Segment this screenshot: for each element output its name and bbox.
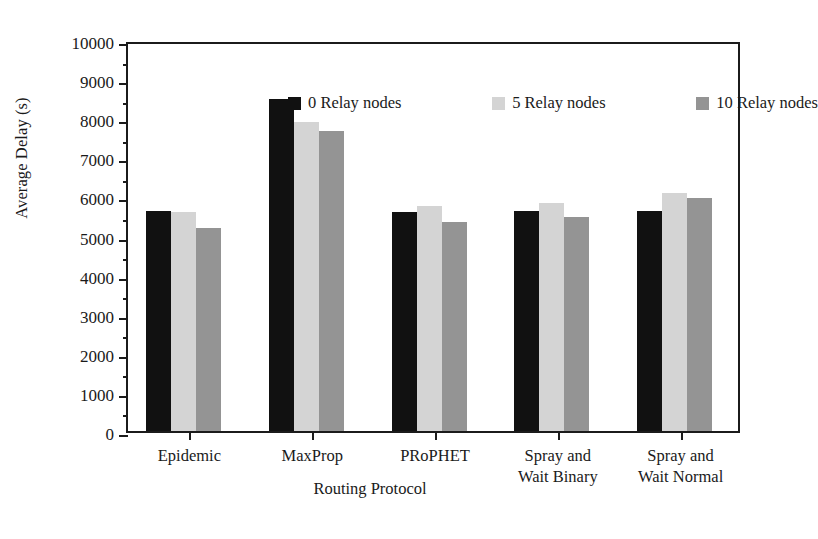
legend-label-10-relay-nodes: 10 Relay nodes xyxy=(716,93,818,113)
x-tick xyxy=(558,431,560,440)
y-tick-minor xyxy=(123,64,128,66)
x-axis-title: Routing Protocol xyxy=(0,479,740,499)
y-tick-minor xyxy=(123,298,128,300)
y-tick-major xyxy=(119,200,128,202)
legend-item-1: 5 Relay nodes xyxy=(492,93,605,113)
x-tick xyxy=(312,431,314,440)
y-tick-minor xyxy=(123,259,128,261)
y-tick-label: 9000 xyxy=(80,73,114,93)
y-tick-label: 4000 xyxy=(80,269,114,289)
y-axis-title: Average Delay (s) xyxy=(12,0,32,328)
y-tick-label: 7000 xyxy=(80,151,114,171)
y-tick-label: 6000 xyxy=(80,190,114,210)
x-tick xyxy=(189,431,191,440)
legend-label-5-relay-nodes: 5 Relay nodes xyxy=(512,93,605,113)
bar xyxy=(539,203,564,431)
y-tick-minor xyxy=(123,181,128,183)
bar xyxy=(319,131,344,431)
y-tick-major xyxy=(119,318,128,320)
y-tick-major xyxy=(119,279,128,281)
bar xyxy=(514,211,539,431)
bar xyxy=(442,222,467,431)
bar xyxy=(392,212,417,431)
legend-item-2: 10 Relay nodes xyxy=(696,93,818,113)
y-tick-minor xyxy=(123,337,128,339)
bar xyxy=(171,212,196,431)
bar xyxy=(269,99,294,431)
y-tick-major xyxy=(119,435,128,437)
y-tick-minor xyxy=(123,376,128,378)
bar xyxy=(662,193,687,432)
x-category-label: Epidemic xyxy=(124,445,254,466)
x-tick xyxy=(681,431,683,440)
y-tick-major xyxy=(119,357,128,359)
legend-swatch-5-relay-nodes xyxy=(492,97,505,110)
y-tick-label: 2000 xyxy=(80,347,114,367)
y-tick-major xyxy=(119,161,128,163)
y-tick-label: 3000 xyxy=(80,308,114,328)
bar xyxy=(417,206,442,431)
legend-swatch-10-relay-nodes xyxy=(696,97,709,110)
y-tick-label: 0 xyxy=(106,425,115,445)
y-tick-major xyxy=(119,83,128,85)
y-tick-label: 10000 xyxy=(72,34,115,54)
bar xyxy=(196,228,221,431)
y-tick-minor xyxy=(123,142,128,144)
legend-item-0: 0 Relay nodes xyxy=(288,93,401,113)
y-tick-minor xyxy=(123,415,128,417)
y-tick-major xyxy=(119,240,128,242)
y-tick-major xyxy=(119,396,128,398)
y-tick-major xyxy=(119,44,128,46)
bar xyxy=(294,122,319,431)
y-tick-minor xyxy=(123,103,128,105)
y-tick-major xyxy=(119,122,128,124)
bar xyxy=(637,211,662,431)
y-tick-label: 8000 xyxy=(80,112,114,132)
legend-swatch-0-relay-nodes xyxy=(288,97,301,110)
x-category-label: MaxProp xyxy=(247,445,377,466)
bar xyxy=(687,198,712,431)
y-tick-minor xyxy=(123,220,128,222)
chart-legend: 0 Relay nodes 5 Relay nodes 10 Relay nod… xyxy=(288,93,818,113)
x-tick xyxy=(435,431,437,440)
plot-area: 0100020003000400050006000700080009000100… xyxy=(126,42,740,433)
y-tick-label: 1000 xyxy=(80,386,114,406)
bar xyxy=(146,211,171,431)
x-category-label: PRoPHET xyxy=(370,445,500,466)
y-tick-label: 5000 xyxy=(80,230,114,250)
legend-label-0-relay-nodes: 0 Relay nodes xyxy=(308,93,401,113)
bar xyxy=(564,217,589,431)
